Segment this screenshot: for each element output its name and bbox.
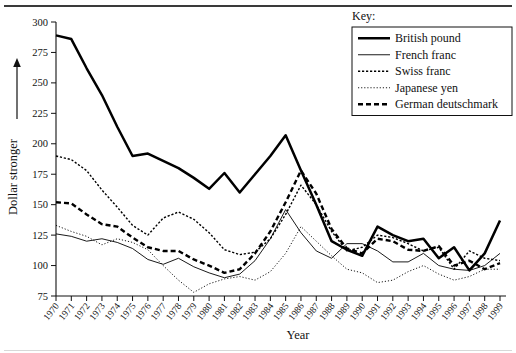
x-tick-label: 1985 — [271, 301, 291, 322]
line-chart-canvas: 7510012515017520022525027530019701971197… — [0, 0, 516, 353]
x-tick-label: 1978 — [164, 301, 184, 322]
x-tick-label: 1989 — [332, 301, 352, 322]
y-tick-label: 100 — [32, 260, 48, 271]
x-tick-label: 1986 — [286, 301, 306, 322]
y-tick-label: 225 — [32, 108, 48, 119]
legend-title: Key: — [352, 9, 375, 23]
x-tick-label: 1999 — [485, 301, 505, 322]
series-line-japanese-yen[interactable] — [56, 225, 500, 292]
x-tick-label: 1979 — [179, 301, 199, 322]
x-axis-title: Year — [286, 328, 310, 342]
x-tick-label: 1976 — [133, 301, 153, 322]
x-tick-label: 1980 — [195, 301, 215, 322]
legend-label-british-pound[interactable]: British pound — [395, 31, 461, 45]
series-line-french-franc[interactable] — [56, 210, 500, 278]
x-tick-label: 1997 — [455, 301, 475, 322]
x-tick-label: 1972 — [72, 301, 92, 322]
legend-label-french-franc[interactable]: French franc — [395, 48, 456, 62]
y-tick-label: 275 — [32, 47, 48, 58]
y-tick-label: 200 — [32, 138, 48, 149]
bottom-divider-rule — [4, 350, 512, 351]
x-tick-label: 1983 — [241, 301, 261, 322]
x-tick-label: 1990 — [348, 301, 368, 322]
y-tick-label: 75 — [38, 291, 49, 302]
x-tick-label: 1991 — [363, 301, 383, 322]
series-line-german-deutschmark[interactable] — [56, 171, 500, 273]
x-tick-label: 1973 — [87, 301, 107, 322]
x-tick-label: 1987 — [302, 301, 322, 322]
chart-figure: 7510012515017520022525027530019701971197… — [0, 0, 516, 353]
x-tick-label: 1998 — [470, 301, 490, 322]
x-tick-label: 1982 — [225, 301, 245, 322]
x-tick-label: 1971 — [57, 301, 77, 322]
x-tick-label: 1994 — [409, 301, 429, 322]
y-tick-label: 300 — [32, 17, 48, 28]
x-tick-label: 1996 — [440, 301, 460, 322]
x-tick-label: 1993 — [394, 301, 414, 322]
y-tick-label: 150 — [32, 199, 48, 210]
x-tick-label: 1984 — [256, 301, 276, 322]
top-divider-rule — [4, 5, 512, 7]
y-axis-arrow-head — [13, 58, 21, 67]
y-axis-title: Dollar stronger — [6, 138, 20, 215]
y-tick-label: 175 — [32, 169, 48, 180]
x-tick-label: 1992 — [378, 301, 398, 322]
x-tick-label: 1974 — [103, 301, 123, 322]
legend-label-swiss-franc[interactable]: Swiss franc — [395, 64, 451, 78]
x-tick-label: 1981 — [210, 301, 230, 322]
legend-label-german-deutschmark[interactable]: German deutschmark — [395, 97, 498, 111]
x-tick-label: 1977 — [149, 301, 169, 322]
legend-label-japanese-yen[interactable]: Japanese yen — [395, 81, 458, 95]
x-tick-label: 1995 — [424, 301, 444, 322]
x-tick-label: 1975 — [118, 301, 138, 322]
chart-legend[interactable]: Key:British poundFrench francSwiss franc… — [352, 9, 512, 116]
x-tick-label: 1988 — [317, 301, 337, 322]
y-tick-label: 125 — [32, 230, 48, 241]
y-tick-label: 250 — [32, 77, 48, 88]
x-tick-label: 1970 — [41, 301, 61, 322]
